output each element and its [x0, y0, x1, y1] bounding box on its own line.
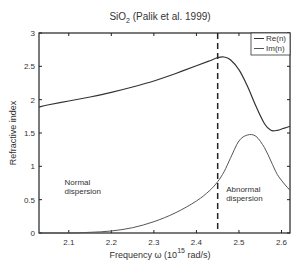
- y-tick-label: 0.5: [24, 196, 36, 205]
- y-tick-label: 1: [31, 162, 36, 171]
- x-tick-label: 2.4: [191, 238, 203, 247]
- y-tick-label: 2.5: [24, 62, 36, 71]
- y-tick-label: 2: [31, 96, 36, 105]
- legend: Re(n) Im(n): [251, 33, 290, 55]
- x-label-superscript: 15: [177, 247, 185, 254]
- x-tick-label: 2.5: [233, 238, 245, 247]
- x-axis-label: Frequency ω (1015 rad/s): [110, 247, 211, 260]
- legend-label-re: Re(n): [266, 34, 286, 43]
- plot-frame: [39, 33, 290, 233]
- x-tick-label: 2.1: [63, 238, 75, 247]
- x-tick-label: 2.6: [276, 238, 288, 247]
- legend-label-im: Im(n): [266, 44, 285, 53]
- y-axis-label: Refractive index: [8, 100, 18, 165]
- chart: SiO2 (Palik et al. 1999) 00.511.522.53 2…: [0, 0, 307, 271]
- x-tick-label: 2.2: [106, 238, 118, 247]
- annotation-text: Abnormaldispersion: [226, 185, 262, 203]
- y-tick-label: 0: [31, 229, 36, 238]
- y-tick-label: 1.5: [24, 129, 36, 138]
- x-tick-label: 2.3: [148, 238, 160, 247]
- chart-title: SiO2 (Palik et al. 1999): [109, 11, 210, 24]
- y-tick-label: 3: [31, 29, 36, 38]
